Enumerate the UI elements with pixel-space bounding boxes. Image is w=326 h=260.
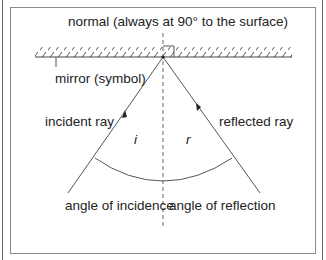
normal-label: normal (always at 90° to the surface) xyxy=(68,15,288,29)
reflected-ray-label: reflected ray xyxy=(219,115,293,129)
angle-r-label: r xyxy=(186,133,191,147)
angle-of-reflection-label: angle of reflection xyxy=(169,199,276,213)
mirror-label: mirror (symbol) xyxy=(55,72,146,86)
incidence-point xyxy=(161,55,164,58)
incident-ray-label: incident ray xyxy=(45,115,114,129)
angle-of-incidence-label: angle of incidence xyxy=(65,199,174,213)
angle-i-label: i xyxy=(134,133,137,147)
